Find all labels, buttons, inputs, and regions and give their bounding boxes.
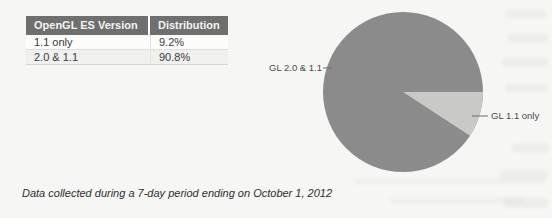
page: OpenGL ES Version Distribution 1.1 only … [0,0,552,218]
data-collection-caption: Data collected during a 7-day period end… [22,187,332,199]
pie-chart: GL 2.0 & 1.1 GL 1.1 only [0,0,552,218]
pie-label-gl-1-1-only: GL 1.1 only [491,110,539,121]
scan-artifact [390,197,525,204]
scan-artifact [508,34,548,43]
scan-artifact [506,84,548,92]
scan-artifact [512,143,550,153]
scan-artifact [505,10,547,18]
scan-artifact [502,58,548,67]
pie-label-gl-2-0-and-1-1: GL 2.0 & 1.1 [269,62,322,73]
scan-artifact [355,178,545,185]
